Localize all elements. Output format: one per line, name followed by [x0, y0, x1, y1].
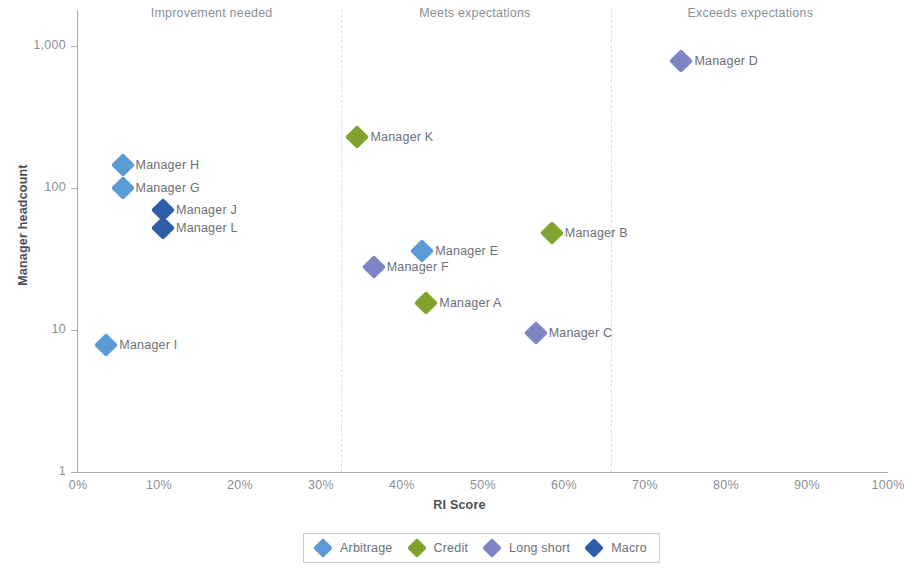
zone-divider-1 — [611, 10, 612, 472]
y-tick-label: 1 — [0, 464, 66, 478]
data-point-label: Manager B — [565, 226, 628, 240]
y-axis-title: Manager headcount — [16, 130, 30, 320]
data-point-marker[interactable] — [540, 221, 564, 245]
data-point-label: Manager D — [694, 54, 758, 68]
legend-diamond-icon — [584, 538, 604, 558]
x-tick-label: 80% — [713, 478, 739, 492]
x-tick-label: 70% — [632, 478, 658, 492]
data-point-label: Manager E — [435, 244, 498, 258]
data-point-marker[interactable] — [414, 291, 438, 315]
x-axis-title: RI Score — [0, 498, 919, 512]
legend-item-label: Macro — [611, 541, 647, 555]
legend-item-label: Long short — [509, 541, 570, 555]
data-point-label: Manager F — [387, 260, 449, 274]
y-tick-label-wrap-2: 100 — [0, 180, 66, 194]
data-point-label: Manager C — [549, 326, 613, 340]
x-tick-label: 30% — [308, 478, 334, 492]
data-point-marker[interactable] — [111, 153, 135, 177]
data-point-label: Manager A — [439, 296, 501, 310]
legend-item-macro[interactable]: Macro — [587, 541, 647, 555]
x-axis-line — [77, 472, 888, 473]
legend-item-label: Credit — [434, 541, 469, 555]
data-point-marker[interactable] — [111, 176, 135, 200]
y-tick-label: 100 — [0, 180, 66, 194]
data-point-label: Manager L — [176, 221, 238, 235]
data-point-marker[interactable] — [151, 216, 175, 240]
y-tick-label-wrap-3: 1,000 — [0, 38, 66, 52]
legend-item-credit[interactable]: Credit — [410, 541, 469, 555]
data-point-marker[interactable] — [362, 254, 386, 278]
x-tick-label: 100% — [871, 478, 904, 492]
x-tick-label: 50% — [470, 478, 496, 492]
data-point-label: Manager J — [176, 203, 237, 217]
data-point-label: Manager H — [136, 158, 200, 172]
x-tick-label: 90% — [794, 478, 820, 492]
zone-divider-0 — [341, 10, 342, 472]
legend-diamond-icon — [482, 538, 502, 558]
chart-legend: ArbitrageCreditLong shortMacro — [303, 533, 660, 563]
y-tick-mark-3 — [71, 46, 77, 47]
y-tick-label: 10 — [0, 322, 66, 336]
zone-label-0: Improvement needed — [151, 6, 273, 20]
data-point-marker[interactable] — [524, 321, 548, 345]
y-tick-label: 1,000 — [0, 38, 66, 52]
data-point-label: Manager I — [119, 338, 177, 352]
legend-item-long-short[interactable]: Long short — [485, 541, 570, 555]
x-tick-label: 10% — [146, 478, 172, 492]
zone-label-1: Meets expectations — [419, 6, 530, 20]
data-point-marker[interactable] — [669, 49, 693, 73]
x-tick-label: 60% — [551, 478, 577, 492]
data-point-label: Manager G — [136, 181, 200, 195]
legend-diamond-icon — [407, 538, 427, 558]
data-point-marker[interactable] — [94, 333, 118, 357]
legend-item-label: Arbitrage — [340, 541, 393, 555]
y-axis-line — [77, 10, 78, 472]
x-tick-label: 20% — [227, 478, 253, 492]
data-point-label: Manager K — [370, 130, 433, 144]
data-point-marker[interactable] — [345, 125, 369, 149]
y-tick-label-wrap-1: 10 — [0, 322, 66, 336]
y-tick-label-wrap-0: 1 — [0, 464, 66, 478]
y-tick-mark-0 — [71, 472, 77, 473]
legend-item-arbitrage[interactable]: Arbitrage — [316, 541, 393, 555]
y-tick-mark-2 — [71, 188, 77, 189]
x-tick-label: 0% — [69, 478, 88, 492]
legend-diamond-icon — [313, 538, 333, 558]
zone-label-2: Exceeds expectations — [687, 6, 813, 20]
y-tick-mark-1 — [71, 330, 77, 331]
x-tick-label: 40% — [389, 478, 415, 492]
scatter-chart: Improvement neededMeets expectationsExce… — [0, 0, 919, 581]
